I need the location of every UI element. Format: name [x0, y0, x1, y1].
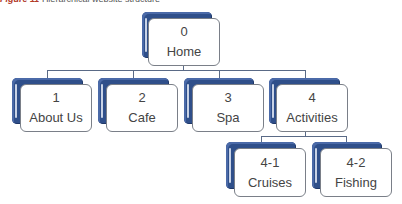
- node-box: 3 Spa: [192, 84, 264, 132]
- node-label: Cruises: [248, 173, 292, 193]
- node-id: 4: [308, 88, 315, 108]
- node-box: 4 Activities: [276, 84, 348, 132]
- node-label: About Us: [29, 108, 82, 128]
- connector-row2-horizontal: [261, 136, 347, 137]
- node-box: 2 Cafe: [106, 84, 178, 132]
- connector-row1-horizontal: [47, 70, 306, 71]
- caption-text: Hierarchical website structure: [42, 0, 160, 4]
- node-id: 0: [180, 22, 187, 42]
- node-label: Activities: [286, 108, 337, 128]
- node-label: Home: [167, 42, 202, 62]
- node-label: Cafe: [128, 108, 155, 128]
- node-id: 3: [224, 88, 231, 108]
- node-box: 0 Home: [148, 18, 220, 66]
- node-id: 1: [52, 88, 59, 108]
- node-box: 4-1 Cruises: [234, 148, 306, 197]
- node-id: 2: [138, 88, 145, 108]
- figure-caption: Figure 11 Hierarchical website structure: [0, 0, 160, 4]
- node-box: 4-2 Fishing: [320, 148, 392, 197]
- node-box: 1 About Us: [20, 84, 92, 132]
- node-id: 4-1: [261, 153, 280, 173]
- node-label: Fishing: [335, 173, 377, 193]
- caption-label: Figure 11: [0, 0, 39, 4]
- node-id: 4-2: [347, 153, 366, 173]
- node-label: Spa: [216, 108, 239, 128]
